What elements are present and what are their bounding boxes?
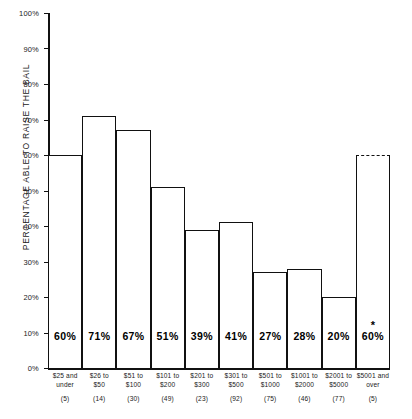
y-axis-tick-label: 0%: [5, 364, 39, 373]
bar-value-label: 20%: [323, 330, 355, 342]
estimate-asterisk-icon: *: [357, 322, 389, 328]
y-axis-tick-label: 60%: [5, 151, 39, 160]
y-axis-tick-label: 80%: [5, 80, 39, 89]
y-axis-tick-label: 20%: [5, 293, 39, 302]
bar[interactable]: 71%: [82, 116, 116, 368]
x-axis-category: $5001 andover(5): [351, 372, 395, 404]
y-axis-tick-label: 90%: [5, 44, 39, 53]
bar-value-label: 67%: [117, 330, 149, 342]
bar[interactable]: 51%: [151, 187, 185, 368]
bar[interactable]: 41%: [219, 222, 253, 368]
y-axis-tick-label: 70%: [5, 115, 39, 124]
y-axis-tick-label: 10%: [5, 328, 39, 337]
bar[interactable]: 60%: [48, 155, 82, 368]
bar-value-label: 28%: [288, 330, 320, 342]
bar[interactable]: 67%: [116, 130, 150, 368]
bar-value-label: 71%: [83, 330, 115, 342]
y-axis-tick-label: 50%: [5, 186, 39, 195]
x-axis-category-line: over: [351, 381, 395, 390]
x-axis-line: [48, 368, 390, 370]
plot-area: 60%71%67%51%39%41%27%28%20%*60%: [48, 13, 390, 368]
bail-percentage-bar-chart: PERCENTAGE ABLE TO RAISE THE BAIL 0%10%2…: [0, 0, 412, 419]
bar-value-label: 27%: [254, 330, 286, 342]
bar-value-label: 60%: [49, 330, 81, 342]
bar[interactable]: 28%: [287, 269, 321, 368]
bar[interactable]: 20%: [322, 297, 356, 368]
bar-value-label: 60%: [357, 330, 389, 342]
y-axis-tick-labels: 0%10%20%30%40%50%60%70%80%90%100%: [5, 0, 39, 419]
bar-value-label: 51%: [152, 330, 184, 342]
sample-count-label: (5): [351, 395, 395, 404]
y-axis-tick-label: 40%: [5, 222, 39, 231]
y-axis-tick-label: 100%: [5, 9, 39, 18]
x-axis-category-line: $5001 and: [351, 372, 395, 381]
y-axis-tick-label: 30%: [5, 257, 39, 266]
bar-value-label: 39%: [186, 330, 218, 342]
bar-value-label: 41%: [220, 330, 252, 342]
bar[interactable]: 27%: [253, 272, 287, 368]
bar[interactable]: 39%: [185, 230, 219, 368]
bar[interactable]: *60%: [356, 155, 390, 368]
x-axis-category-labels: $25 andunder(5)$26 to$50(14)$51 to$100(3…: [48, 372, 390, 419]
